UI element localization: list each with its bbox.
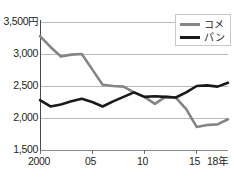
y-axis-line [40, 20, 41, 152]
y-axis-label-3000: 3,000 [0, 48, 38, 59]
legend-label-pan: パン [204, 32, 225, 43]
y-axis-label-2000: 2,000 [0, 112, 38, 123]
x-axis-label-2010: 10 [137, 155, 148, 167]
x-axis-label-2015: 15 [189, 155, 200, 167]
legend-swatch-pan [180, 36, 200, 39]
legend-item-pan: パン [180, 31, 225, 44]
gridline-3000 [40, 54, 228, 55]
gridline-2500 [40, 86, 228, 87]
y-axis-label-3500: 3,500円 [0, 16, 38, 27]
legend-item-kome: コメ [180, 18, 224, 31]
page-caption-bleed [0, 176, 234, 184]
legend: コメ パン [175, 14, 231, 46]
y-axis-label-2500: 2,500 [0, 80, 38, 91]
gridline-2000 [40, 118, 228, 119]
xtick-2005 [92, 150, 93, 154]
x-axis-label-2005: 05 [85, 155, 96, 167]
legend-swatch-kome [180, 23, 200, 26]
xtick-2015 [196, 150, 197, 154]
x-axis-label-2000: 2000 [28, 155, 50, 167]
y-axis-label-1500: 1,500 [0, 144, 38, 155]
rice-bread-price-line-chart: 3,500円 3,000 2,500 2,000 1,500 2000 05 1… [0, 0, 234, 184]
xtick-2000 [40, 150, 41, 154]
x-axis-line [40, 150, 228, 151]
legend-label-kome: コメ [204, 19, 224, 30]
xtick-2010 [144, 150, 145, 154]
x-axis-label-2018: 18年 [207, 155, 228, 167]
